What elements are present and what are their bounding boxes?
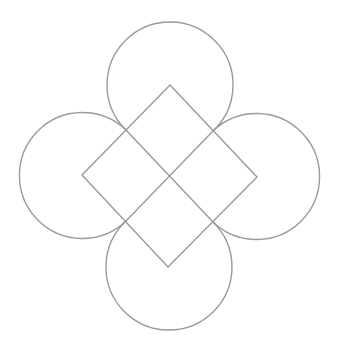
diagram-canvas (0, 0, 339, 350)
bottom-circle-arc (106, 221, 232, 330)
right-circle-arc (213, 114, 320, 240)
quatrefoil-diagram (0, 0, 339, 350)
top-circle-arc (107, 22, 233, 131)
left-circle-arc (19, 113, 126, 239)
